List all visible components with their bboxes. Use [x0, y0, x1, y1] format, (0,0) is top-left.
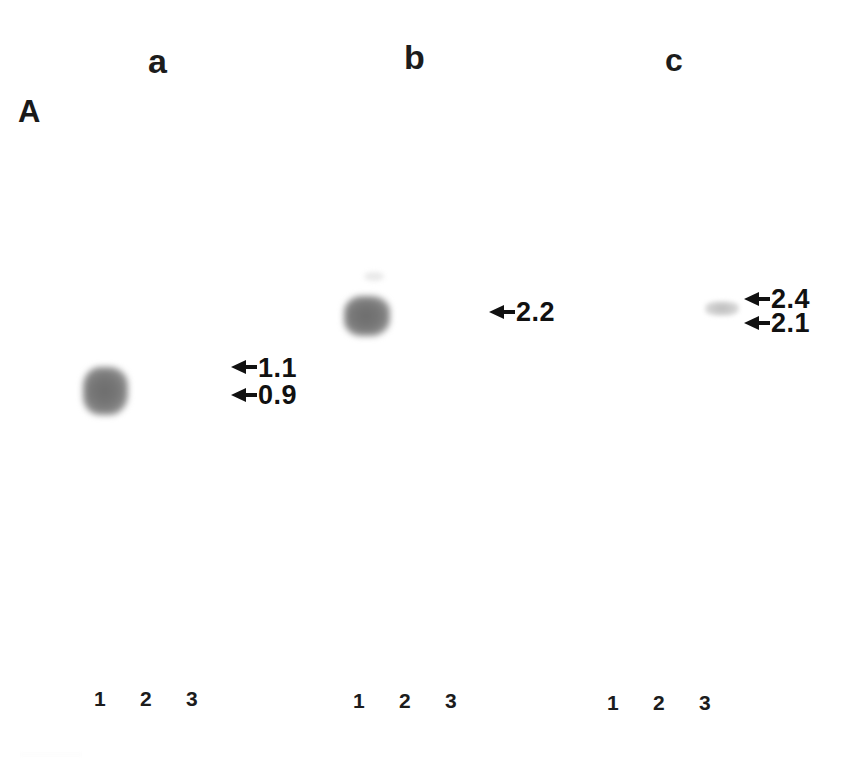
lane-number-a-1: 1	[94, 688, 106, 709]
lane-number-b-1: 1	[353, 690, 365, 711]
lane-number-a-3: 3	[186, 688, 198, 709]
arrow-icon-2-1	[744, 316, 770, 330]
size-marker-2-2: 2.2	[516, 299, 555, 326]
arrow-icon-2-4	[744, 292, 770, 306]
lane-number-a-2: 2	[140, 688, 152, 709]
blot-speck-b	[364, 272, 384, 281]
size-marker-2-1: 2.1	[771, 310, 810, 337]
arrow-icon-0-9	[231, 388, 257, 402]
blot-band-c-lane1	[705, 301, 739, 316]
blot-figure: A a b c 1.1 0.9 2.2 2.4 2.1 1 2 3 1 2 3 …	[0, 0, 846, 767]
group-label-b: b	[404, 40, 425, 74]
panel-label-A: A	[18, 96, 40, 127]
group-label-a: a	[148, 44, 167, 78]
lane-number-c-3: 3	[699, 692, 711, 713]
lane-number-c-2: 2	[653, 692, 665, 713]
lane-number-c-1: 1	[607, 692, 619, 713]
size-marker-0-9: 0.9	[258, 382, 297, 409]
group-label-c: c	[665, 44, 683, 76]
scan-edge-artifact	[20, 752, 82, 757]
arrow-icon-2-2	[489, 305, 515, 319]
lane-number-b-2: 2	[399, 690, 411, 711]
size-marker-1-1: 1.1	[258, 355, 297, 382]
lane-number-b-3: 3	[445, 690, 457, 711]
arrow-icon-1-1	[231, 360, 257, 374]
blot-band-b-lane1	[344, 296, 390, 336]
blot-band-a-lane1	[83, 367, 128, 415]
